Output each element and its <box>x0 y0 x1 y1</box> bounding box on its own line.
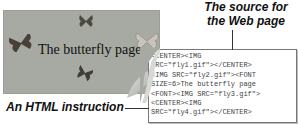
caption-instruction: An HTML instruction <box>6 100 124 114</box>
butterfly-icon-bottom <box>77 64 93 82</box>
page-curl-overlay <box>140 48 160 103</box>
webpage-title: The butterfly page <box>38 42 141 58</box>
code-line: SIZE=6>The butterfly page <box>151 80 260 89</box>
source-code-box: <CENTER><IMGSRC="fly1.gif"></CENTER><IMG… <box>148 49 297 123</box>
leader-line-source <box>232 30 233 50</box>
caption-source-line1: The source for <box>196 0 296 14</box>
leader-line-instruction <box>125 108 149 109</box>
source-code: <CENTER><IMGSRC="fly1.gif"></CENTER><IMG… <box>151 52 260 118</box>
code-line: <IMG SRC="fly2.gif"><FONT <box>151 71 260 80</box>
code-line: <FONT><IMG SRC="fly3.gif"> <box>151 90 260 99</box>
caption-source: The source for the Web page <box>196 0 296 28</box>
butterfly-icon-top <box>78 14 94 28</box>
code-line: SRC="fly1.gif"></CENTER> <box>151 61 260 70</box>
code-line: <CENTER><IMG <box>151 52 260 61</box>
code-line: SRC="fly4.gif"></CENTER> <box>151 108 260 117</box>
caption-source-line2: the Web page <box>196 14 296 28</box>
butterfly-icon-left <box>9 34 33 52</box>
code-line: <CENTER><IMG <box>151 99 260 108</box>
